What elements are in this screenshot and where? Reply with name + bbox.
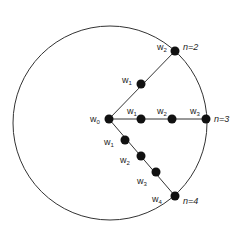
node-n3-w2 [168,115,177,124]
label-n3-w3: w3 [189,106,201,117]
branching-diagram: w0 w1 w2 n=2 w1 w2 w3 n=3 w1 w2 w3 w4 n=… [0,0,241,237]
label-w0: w0 [89,114,101,125]
node-n4-w1 [121,136,130,145]
label-n2-end: n=2 [183,42,198,52]
label-n3-end: n=3 [214,114,229,124]
node-n2-w2 [171,47,180,56]
node-n3-w3 [202,115,211,124]
node-n4-w2 [137,152,146,161]
node-n2-w1 [137,80,146,89]
label-n4-end: n=4 [183,196,198,206]
node-w0 [105,115,114,124]
node-n4-w3 [152,168,161,177]
label-n3-w1: w1 [126,106,138,117]
label-n3-w2: w2 [156,106,168,117]
node-n3-w1 [137,115,146,124]
label-n4-w3: w3 [136,176,148,187]
label-n4-w2: w2 [119,155,131,166]
label-n4-w4: w4 [151,194,163,205]
node-n4-w4 [171,192,180,201]
label-n4-w1: w1 [103,137,115,148]
label-n2-w1: w1 [121,75,133,86]
